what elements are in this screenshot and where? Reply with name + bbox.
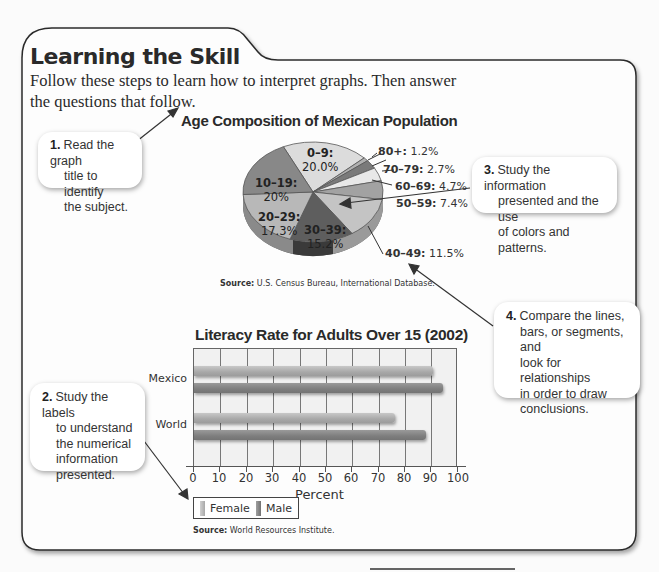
range: 40–49: (385, 247, 426, 260)
step-text: title to identify (50, 169, 132, 200)
pie-label-70-79: 70–79: 2.7% (383, 163, 455, 176)
bar-chart-title: Literacy Rate for Adults Over 15 (2002) (195, 326, 468, 344)
step-text: the numerical (42, 437, 135, 453)
step-text: information (42, 452, 135, 468)
pie-label-20-29: 20–29: 17.3% (258, 210, 300, 238)
x-axis-title: Percent (295, 487, 344, 502)
tick-label: 10 (204, 471, 234, 485)
bar-mexico-male (194, 383, 443, 393)
tick-label: 90 (415, 471, 445, 485)
section-heading: Learning the Skill (30, 44, 240, 69)
value: 20.0% (302, 160, 339, 174)
bar-legend: Female Male (193, 497, 299, 519)
bar-mexico-female (194, 366, 433, 376)
bar-world-male (194, 430, 426, 440)
value: 1.2% (410, 145, 438, 158)
tick-label: 60 (336, 471, 366, 485)
step-text: bars, or segments, and (506, 325, 630, 356)
step-text: presented and the use (484, 194, 607, 225)
step-text: conclusions. (506, 402, 630, 418)
value: 2.7% (427, 163, 455, 176)
step-number: 2. (42, 390, 52, 404)
step-number: 3. (484, 163, 494, 177)
bar-plot-area (193, 348, 457, 466)
step-text: the subject. (50, 200, 132, 216)
source-text: U.S. Census Bureau, International Databa… (257, 279, 435, 288)
category-world: World (137, 418, 187, 431)
legend-swatch-male (256, 501, 261, 516)
category-mexico: Mexico (137, 372, 187, 385)
source-text: World Resources Institute. (230, 526, 335, 535)
step-text: to understand (42, 421, 135, 437)
pie-label-30-39: 30–39: 15.2% (304, 223, 346, 251)
range: 50–59: (396, 197, 437, 210)
value: 4.7% (439, 180, 467, 193)
range: 20–29: (258, 210, 300, 224)
pie-source: Source: U.S. Census Bureau, Internationa… (220, 279, 435, 288)
step-text: Compare the lines, (519, 309, 624, 323)
pie-label-80plus: 80+: 1.2% (378, 145, 438, 158)
step-text: look for relationships (506, 356, 630, 387)
bar-source: Source: World Resources Institute. (193, 526, 334, 535)
intro-line-1: Follow these steps to learn how to inter… (30, 70, 510, 91)
pie-chart-title: Age Composition of Mexican Population (181, 112, 457, 129)
range: 0–9: (307, 146, 333, 160)
step-text: of colors and patterns. (484, 225, 607, 256)
legend-label-female: Female (210, 502, 250, 515)
range: 70–79: (383, 163, 424, 176)
value: 7.4% (440, 197, 468, 210)
legend-label-male: Male (266, 502, 292, 515)
pie-label-50-59: 50–59: 7.4% (396, 197, 468, 210)
callout-step-1: 1.Read the graph title to identify the s… (38, 132, 142, 188)
step-number: 4. (506, 309, 516, 323)
step-text: in order to draw (506, 387, 630, 403)
value: 20% (263, 190, 289, 204)
range: 60–69: (395, 180, 436, 193)
value: 17.3% (261, 224, 298, 238)
range: 30–39: (304, 223, 346, 237)
step-text: presented. (42, 468, 135, 484)
pie-label-40-49: 40–49: 11.5% (385, 247, 464, 260)
value: 11.5% (429, 247, 464, 260)
pie-label-10-19: 10–19: 20% (255, 176, 297, 204)
tick-label: 30 (257, 471, 287, 485)
pie-label-60-69: 60–69: 4.7% (395, 180, 467, 193)
bar-world-female (194, 413, 395, 423)
value: 15.2% (307, 237, 344, 251)
range: 10–19: (255, 176, 297, 190)
callout-step-4: 4.Compare the lines, bars, or segments, … (494, 302, 640, 398)
x-axis (186, 466, 466, 467)
step-number: 1. (50, 138, 60, 152)
intro-line-2: the questions that follow. (30, 91, 510, 112)
source-label: Source: (220, 279, 254, 288)
source-label: Source: (193, 526, 227, 535)
legend-swatch-female (200, 501, 205, 516)
callout-step-2: 2.Study the labels to understand the num… (30, 383, 145, 471)
tick-label: 100 (443, 471, 473, 485)
section-intro: Follow these steps to learn how to inter… (30, 70, 510, 112)
pie-label-0-9: 0–9: 20.0% (302, 146, 339, 174)
range: 80+: (378, 145, 407, 158)
callout-step-3: 3.Study the information presented and th… (472, 157, 617, 213)
